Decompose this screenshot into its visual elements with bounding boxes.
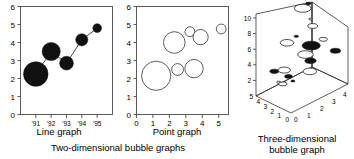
point-graph-ytick-5: 5 [127,21,132,30]
three-d-xtick-1: 1 [307,112,311,119]
point-graph-axis-title: Point graph [118,126,236,137]
three-d-z-axis: 10 8 6 4 2 [244,15,256,84]
three-d-bubble-2 [291,80,295,82]
point-graph-bubble-4 [185,59,203,77]
three-d-bubble-panel: 10 8 6 4 2 5 4 3 2 1 0 0 1 2 3 4 [236,0,354,128]
three-d-bubble-7 [280,40,294,47]
point-graph-y-axis: 6 5 4 3 2 1 0 [127,3,137,120]
three-d-bubble-9 [298,51,314,59]
line-graph-bubble-92 [42,42,60,60]
point-graph-bubble-0 [142,61,171,90]
point-graph-ytick-3: 3 [127,57,132,66]
line-graph-series [24,24,102,87]
three-d-bubble-12 [309,18,313,20]
line-graph-ytick-5: 5 [11,21,16,30]
three-d-ytick-5: 5 [249,93,253,100]
point-graph-svg: 6 5 4 3 2 1 0 0 1 2 3 4 5 [118,0,236,128]
three-d-xtick-2: 2 [320,105,324,112]
three-d-bubble-16 [319,37,327,41]
three-d-ytick-4: 4 [256,98,260,105]
point-graph-bubble-1 [164,32,186,54]
line-graph-ytick-2: 2 [11,75,16,84]
three-d-ytick-2: 2 [270,108,274,115]
line-graph-ytick-0: 0 [11,111,16,120]
three-d-bubble-15 [306,2,311,5]
three-d-bubble-14 [308,24,318,29]
three-d-bubble-8 [294,35,299,37]
three-dimensional-caption: Three-dimensional bubble graph [240,133,354,155]
point-graph-ytick-1: 1 [127,93,132,102]
bubble-graphs-figure: 6 5 4 3 2 1 0 '91 '92 '93 '94 '95 [0,0,354,159]
line-graph-ytick-4: 4 [11,39,16,48]
three-d-y-axis: 5 4 3 2 1 0 [249,93,289,123]
line-graph-bubble-91 [24,62,49,87]
three-d-bubble-4 [270,69,279,73]
line-graph-ytick-6: 6 [11,3,16,12]
three-d-bubble-5 [278,67,290,73]
line-graph-bubble-95 [93,24,102,33]
line-graph-bubble-94 [76,34,88,46]
line-graph-axis-title: Line graph [0,126,118,137]
three-d-ytick-3: 3 [263,103,267,110]
line-graph-svg: 6 5 4 3 2 1 0 '91 '92 '93 '94 '95 [0,0,118,128]
point-graph-bubble-6 [216,24,226,34]
three-d-xtick-0: 0 [294,116,298,123]
three-dimensional-caption-line1: Three-dimensional [240,133,354,144]
line-graph-ytick-1: 1 [11,93,16,102]
point-graph-bubble-2 [172,64,184,76]
three-d-bubble-13 [302,41,320,50]
line-graph-panel: 6 5 4 3 2 1 0 '91 '92 '93 '94 '95 [0,0,118,128]
point-graph-panel: 6 5 4 3 2 1 0 0 1 2 3 4 5 [118,0,236,128]
line-graph-ytick-3: 3 [11,57,16,66]
point-graph-bubble-5 [193,29,208,44]
three-d-bubble-1 [279,82,287,86]
point-graph-ytick-6: 6 [127,3,132,12]
three-d-bubble-3 [285,75,293,79]
two-dimensional-caption: Two-dimensional bubble graphs [0,142,236,153]
three-d-xtick-3: 3 [332,98,336,105]
line-graph-bubble-93 [60,56,74,70]
three-d-ytick-1: 1 [277,112,281,119]
three-d-ztick-2: 2 [247,77,251,84]
three-d-ztick-10: 10 [244,15,252,22]
point-graph-ytick-0: 0 [127,111,132,120]
three-d-bubble-17 [330,48,340,53]
line-graph-y-axis: 6 5 4 3 2 1 0 [11,3,21,120]
three-d-ytick-0: 0 [285,116,289,123]
three-d-xtick-4: 4 [343,91,347,98]
point-graph-series [142,24,227,90]
three-d-bubble-6 [303,68,317,75]
point-graph-frame [137,7,229,115]
point-graph-ytick-4: 4 [127,39,132,48]
three-d-ztick-4: 4 [247,61,251,68]
three-d-ztick-8: 8 [247,30,251,37]
three-d-bubble-svg: 10 8 6 4 2 5 4 3 2 1 0 0 1 2 3 4 [236,0,354,128]
three-d-bubble-11 [305,58,316,64]
three-d-ztick-6: 6 [247,46,251,53]
point-graph-ytick-2: 2 [127,75,132,84]
three-dimensional-caption-line2: bubble graph [240,144,354,155]
three-d-bubble-10 [294,4,311,12]
